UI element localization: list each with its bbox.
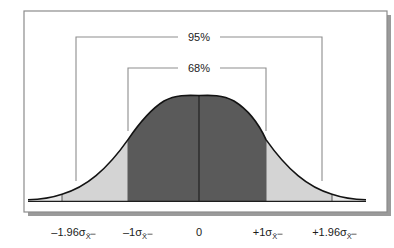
tick-label-neg-1: –1σX̄ (123, 226, 147, 241)
axis-tick-labels: –1.96σX̄ –1σX̄ 0 +1σX̄ +1.96σX̄ (51, 226, 351, 241)
bracket-95-label: 95% (188, 31, 210, 43)
tick-label-zero: 0 (196, 226, 202, 238)
bracket-68-label: 68% (188, 62, 210, 74)
normal-distribution-figure: 95% 68% –1.96σX̄ –1σX̄ 0 +1σX̄ +1.96σX̄ (0, 0, 394, 248)
distribution-chart-svg: 95% 68% –1.96σX̄ –1σX̄ 0 +1σX̄ +1.96σX̄ (0, 0, 394, 248)
tick-label-pos-1: +1σX̄ (253, 226, 277, 241)
tick-label-pos-196: +1.96σX̄ (312, 226, 352, 241)
tick-label-neg-196: –1.96σX̄ (51, 226, 90, 241)
